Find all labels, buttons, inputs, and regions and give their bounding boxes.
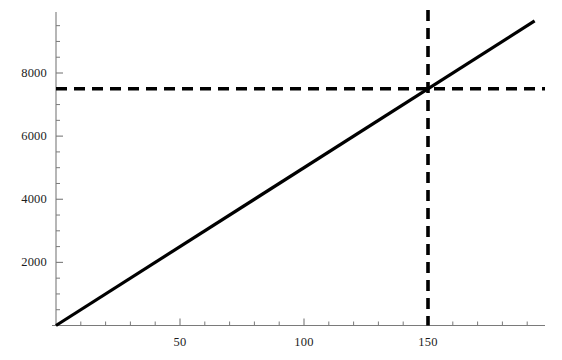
y-tick-label: 6000 — [0, 129, 47, 144]
plot-area — [0, 0, 562, 360]
chart-container: 2000400060008000 50100150 — [0, 0, 562, 360]
y-axis-ticks — [56, 26, 63, 310]
x-tick-label: 50 — [174, 335, 187, 350]
y-tick-label: 4000 — [0, 192, 47, 207]
x-axis-ticks — [81, 319, 527, 326]
x-tick-label: 100 — [294, 335, 313, 350]
y-tick-label: 8000 — [0, 66, 47, 81]
series-line-0 — [56, 21, 535, 326]
data-series-layer — [56, 21, 535, 326]
x-tick-label: 150 — [418, 335, 437, 350]
axis-lines — [52, 12, 545, 326]
y-tick-label: 2000 — [0, 255, 47, 270]
